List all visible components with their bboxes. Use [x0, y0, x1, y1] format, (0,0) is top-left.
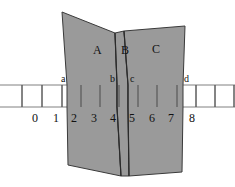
axis-tick-label-5: 5	[129, 112, 135, 124]
axis-tick-label-0: 0	[32, 112, 38, 124]
panel-a-shape	[62, 12, 121, 176]
axis-tick-label-1: 1	[53, 112, 59, 124]
axis-tick-label-8: 8	[189, 112, 195, 124]
panel-label-a: A	[93, 44, 102, 56]
axis-tick-label-7: 7	[168, 112, 174, 124]
axis-tick-label-6: 6	[149, 112, 155, 124]
panel-label-c: C	[152, 43, 160, 55]
panel-label-b: B	[121, 44, 129, 56]
point-label-d: d	[184, 74, 189, 84]
axis-tick-label-3: 3	[91, 112, 97, 124]
band-group	[62, 12, 185, 176]
point-label-a: a	[61, 74, 65, 84]
axis-tick-label-2: 2	[71, 112, 77, 124]
figure-canvas: A B C a b c d 012345678	[0, 0, 235, 187]
point-label-b: b	[110, 74, 115, 84]
point-label-c: c	[130, 74, 134, 84]
diagram-svg	[0, 0, 235, 187]
axis-tick-label-4: 4	[110, 112, 116, 124]
